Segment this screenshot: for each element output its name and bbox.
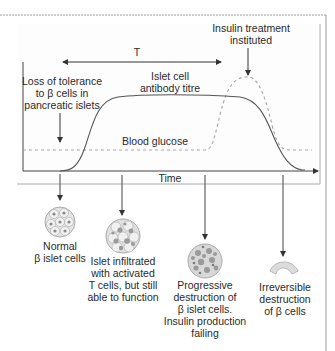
stage-caption-3: Progressive destruction of β islet cells… [155,279,255,339]
time-axis-label: Time [145,172,195,184]
blood-glucose-label: Blood glucose [115,135,195,147]
normal-islet-icon [45,207,75,237]
insulin-treatment-annotation: Insulin treatment instituted [208,22,294,46]
antibody-titre-label: Islet cell antibody titre [130,70,210,94]
destroyed-remnant-icon [270,262,298,274]
infiltrated-islet-icon [106,219,140,253]
destroyed-islet-icon [188,244,222,278]
stage-caption-4: Irreversible destruction of β cells [253,281,317,317]
loss-of-tolerance-annotation: Loss of tolerance to β cells in pancreat… [22,75,102,111]
period-t-label: T [42,46,232,58]
